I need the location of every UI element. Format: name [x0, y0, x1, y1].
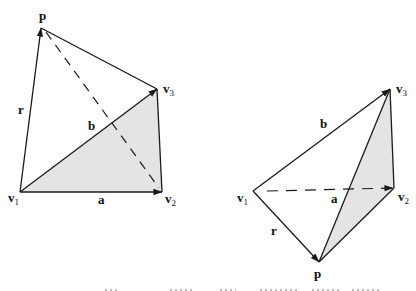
right-label-p: p: [314, 266, 321, 281]
left-label-p: p: [39, 8, 46, 23]
right-label-v2: v2: [398, 189, 409, 206]
left-label-v3: v3: [163, 81, 175, 98]
right-label-v1: v1: [237, 190, 248, 207]
left-label-b: b: [88, 118, 95, 133]
left-label-r: r: [18, 102, 24, 117]
right-vector-r: [253, 191, 319, 262]
right-label-r: r: [271, 223, 277, 238]
right-tetrahedron: b a r p v1 v2 v3: [237, 81, 409, 281]
left-label-a: a: [98, 192, 105, 207]
right-label-v3: v3: [396, 81, 408, 98]
right-label-b: b: [320, 116, 327, 131]
left-label-v2: v2: [165, 191, 176, 208]
left-label-v1: v1: [8, 190, 19, 207]
left-tetrahedron: p r b a v1 v2 v3: [8, 8, 176, 208]
tetrahedra-diagram: p r b a v1 v2 v3 b a r p v1: [0, 0, 416, 291]
right-label-a: a: [331, 191, 338, 206]
left-edge-p-v3: [41, 28, 157, 89]
clipped-caption-fragment: [100, 287, 416, 291]
